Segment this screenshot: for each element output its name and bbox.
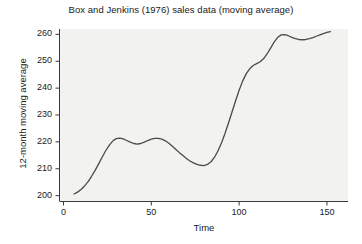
x-tick-label: 50 — [131, 207, 171, 217]
x-tick-label: 0 — [44, 207, 84, 217]
series-line-12-month-moving-average — [74, 32, 330, 194]
x-tick-label: 100 — [219, 207, 259, 217]
series-line-chart — [60, 29, 348, 201]
y-axis-title: 12-month moving average — [17, 44, 28, 184]
x-axis-title: Time — [60, 222, 348, 233]
plot-panel — [60, 29, 348, 201]
chart-figure: Box and Jenkins (1976) sales data (movin… — [0, 0, 362, 244]
y-tick-label: 200 — [18, 190, 52, 200]
x-tick-label: 150 — [307, 207, 347, 217]
chart-title: Box and Jenkins (1976) sales data (movin… — [0, 4, 362, 15]
y-tick-label: 260 — [18, 28, 52, 38]
